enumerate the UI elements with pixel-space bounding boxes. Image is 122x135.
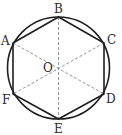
label-D: D [106,92,116,106]
label-F: F [2,93,10,107]
label-C: C [107,33,116,47]
hexagon-circle-diagram: A B C D E F O [0,0,122,135]
label-A: A [0,34,10,48]
dashed-diagonals [13,17,104,119]
label-E: E [54,122,63,135]
label-O: O [43,61,53,75]
label-B: B [54,2,63,16]
